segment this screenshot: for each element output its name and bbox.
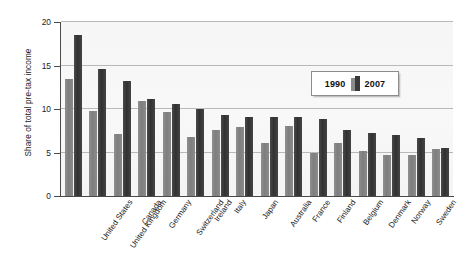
- x-tick-label: Norway: [409, 198, 432, 225]
- bar-group: [285, 22, 302, 196]
- y-axis-title: Share of total pre-tax income: [24, 13, 33, 193]
- legend-swatch-2007-icon: [355, 76, 360, 91]
- bar-2007: [368, 133, 376, 196]
- bar-group: [236, 22, 253, 196]
- bar-1990: [285, 126, 293, 196]
- y-tick-mark: [54, 153, 60, 154]
- bar-group: [310, 22, 327, 196]
- bar-1990: [310, 153, 318, 196]
- bar-1990: [408, 155, 416, 196]
- bar-group: [408, 22, 425, 196]
- bar-1990: [163, 112, 171, 196]
- x-tick-label: United States: [100, 198, 135, 243]
- y-tick-label: 15: [0, 61, 51, 71]
- y-tick-mark: [54, 22, 60, 23]
- bar-group: [261, 22, 278, 196]
- bar-group: [334, 22, 351, 196]
- bar-2007: [147, 99, 155, 196]
- bar-group: [432, 22, 449, 196]
- y-tick-mark: [54, 109, 60, 110]
- x-tick-label: Denmark: [387, 198, 413, 230]
- bar-group: [383, 22, 400, 196]
- legend-swatch-group: [351, 76, 360, 91]
- bar-1990: [89, 111, 97, 196]
- bar-1990: [114, 134, 122, 196]
- x-tick-label: Germany: [167, 198, 193, 230]
- bar-2007: [123, 81, 131, 196]
- bar-1990: [432, 149, 440, 196]
- bar-group: [114, 22, 131, 196]
- y-tick-label: 0: [0, 191, 51, 201]
- bar-group: [359, 22, 376, 196]
- x-tick-label: Japan: [260, 198, 280, 221]
- bar-2007: [319, 119, 327, 196]
- bar-group: [89, 22, 106, 196]
- bar-group: [187, 22, 204, 196]
- x-tick-label: France: [310, 198, 332, 224]
- bar-2007: [392, 135, 400, 196]
- legend-label-2007: 2007: [365, 79, 386, 89]
- bar-1990: [236, 127, 244, 196]
- x-tick-label: Finland: [335, 198, 357, 225]
- bar-group: [212, 22, 229, 196]
- bar-1990: [334, 143, 342, 196]
- y-tick-label: 20: [0, 17, 51, 27]
- bar-1990: [187, 137, 195, 196]
- bar-2007: [98, 69, 106, 196]
- y-tick-label: 5: [0, 148, 51, 158]
- bar-1990: [261, 143, 269, 196]
- x-axis-labels: United StatesUnited KingdomCanadaGermany…: [61, 198, 453, 276]
- bars-layer: [61, 22, 453, 196]
- bar-1990: [359, 151, 367, 196]
- bar-2007: [245, 117, 253, 196]
- bar-2007: [270, 117, 278, 196]
- bar-group: [138, 22, 155, 196]
- bar-2007: [172, 104, 180, 196]
- x-tick-label: Australia: [289, 198, 314, 229]
- bar-2007: [74, 35, 82, 196]
- bar-2007: [294, 117, 302, 196]
- bar-2007: [343, 130, 351, 196]
- y-tick-mark: [54, 66, 60, 67]
- x-tick-label: Sweden: [435, 198, 459, 227]
- bar-2007: [417, 138, 425, 196]
- bar-group: [163, 22, 180, 196]
- bar-1990: [212, 130, 220, 196]
- x-axis-line: [60, 196, 454, 197]
- bar-2007: [441, 148, 449, 196]
- x-tick-label: Belgium: [361, 198, 385, 227]
- bar-2007: [221, 115, 229, 196]
- legend: 1990 2007: [311, 71, 399, 96]
- bar-1990: [138, 101, 146, 196]
- bar-1990: [383, 155, 391, 196]
- legend-label-1990: 1990: [325, 79, 346, 89]
- bar-group: [65, 22, 82, 196]
- y-tick-label: 10: [0, 104, 51, 114]
- x-tick-label: Italy: [233, 198, 249, 215]
- bar-1990: [65, 79, 73, 196]
- bar-chart: Share of total pre-tax income 05101520 U…: [0, 0, 464, 276]
- bar-2007: [196, 109, 204, 196]
- y-tick-mark: [54, 196, 60, 197]
